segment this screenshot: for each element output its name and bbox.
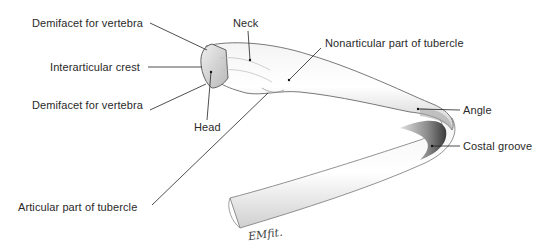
rib-illustration	[0, 0, 550, 251]
rib-anatomy-figure: Demifacet for vertebra Interarticular cr…	[0, 0, 550, 251]
rib-shaft-posterior	[205, 43, 453, 130]
label-articular-tubercle: Articular part of tubercle	[18, 201, 137, 213]
label-interarticular-crest: Interarticular crest	[50, 61, 140, 73]
label-angle: Angle	[463, 104, 492, 116]
label-nonarticular-tubercle: Nonarticular part of tubercle	[325, 37, 464, 49]
label-costal-groove: Costal groove	[463, 140, 532, 152]
label-head: Head	[194, 121, 221, 133]
rib-head	[201, 44, 228, 88]
label-demifacet-lower: Demifacet for vertebra	[32, 99, 143, 111]
label-neck: Neck	[233, 17, 258, 29]
label-demifacet-upper: Demifacet for vertebra	[32, 17, 143, 29]
